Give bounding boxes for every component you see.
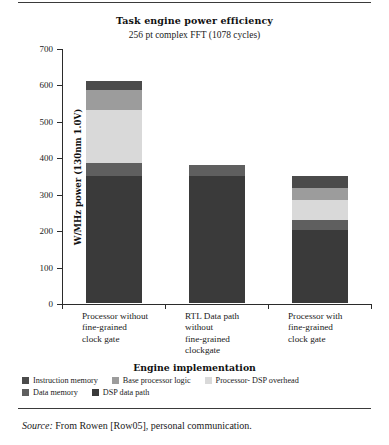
y-axis-tick-label: 300 <box>40 190 54 200</box>
legend-swatch-icon <box>112 377 119 384</box>
legend-item: Processor- DSP overhead <box>205 376 299 385</box>
plot-area: W/MHz power (130nm 1.0V) 010020030040050… <box>62 49 371 304</box>
bar-segment <box>189 176 245 304</box>
legend-row: Instruction memoryBase processor logicPr… <box>22 376 372 385</box>
y-axis-line <box>62 49 63 305</box>
bar-segment <box>86 163 142 176</box>
legend-swatch-icon <box>22 389 29 396</box>
y-axis-tick-label: 500 <box>40 117 54 127</box>
y-axis-tick <box>57 195 62 196</box>
y-axis-label: W/MHz power (130nm 1.0V) <box>73 108 83 244</box>
chart-title: Task engine power efficiency <box>0 14 389 27</box>
category-label-line: clock gate <box>288 334 374 345</box>
y-axis-tick <box>57 231 62 232</box>
title-block: Task engine power efficiency 256 pt comp… <box>0 14 389 42</box>
y-axis-tick-label: 0 <box>49 299 54 309</box>
x-axis-line <box>62 304 371 305</box>
x-axis-tick <box>165 304 166 309</box>
x-axis-label: Engine implementation <box>0 362 389 373</box>
category-label: Processor withfine-grainedclock gate <box>288 311 374 345</box>
source-caption: Source: From Rowen [Row05], personal com… <box>22 420 252 431</box>
bottom-divider-rule <box>18 408 371 409</box>
legend-item: Instruction memory <box>22 376 98 385</box>
bar-segment <box>86 81 142 90</box>
bar-segment <box>292 230 348 303</box>
y-axis-tick <box>57 158 62 159</box>
legend-swatch-icon <box>22 377 29 384</box>
legend-label: Processor- DSP overhead <box>216 376 299 385</box>
category-label-line: Processor without <box>82 311 168 322</box>
category-label-line: Processor with <box>288 311 374 322</box>
y-axis-tick-label: 400 <box>40 153 54 163</box>
y-axis-tick-label: 200 <box>40 226 54 236</box>
legend: Instruction memoryBase processor logicPr… <box>22 376 372 400</box>
y-axis-tick <box>57 268 62 269</box>
legend-label: Base processor logic <box>123 376 191 385</box>
category-label-line: fine-grained <box>288 322 374 333</box>
y-axis-tick-label: 600 <box>40 80 54 90</box>
bar-segment <box>86 90 142 110</box>
y-axis-tick <box>57 85 62 86</box>
category-label: Processor withoutfine-grainedclock gate <box>82 311 168 345</box>
legend-swatch-icon <box>92 389 99 396</box>
source-text: From Rowen [Row05], personal communicati… <box>55 420 252 431</box>
legend-item: Data memory <box>22 388 78 397</box>
figure-container: Task engine power efficiency 256 pt comp… <box>0 0 389 445</box>
legend-label: DSP data path <box>103 388 150 397</box>
category-label-line: without <box>185 322 271 333</box>
y-axis-tick-label: 700 <box>40 44 54 54</box>
category-label: RTL Data pathwithoutfine-grainedclockgat… <box>185 311 271 357</box>
legend-row: Data memoryDSP data path <box>22 388 372 397</box>
bar-segment <box>86 110 142 163</box>
category-label-line: fine-grained <box>185 334 271 345</box>
bar-segment <box>86 176 142 304</box>
x-axis-tick <box>268 304 269 309</box>
category-label-line: clockgate <box>185 345 271 356</box>
y-axis-tick <box>57 122 62 123</box>
legend-swatch-icon <box>205 377 212 384</box>
category-label-line: RTL Data path <box>185 311 271 322</box>
bar-segment <box>292 220 348 230</box>
x-axis-tick <box>62 304 63 309</box>
bar-segment <box>292 188 348 200</box>
legend-label: Data memory <box>33 388 78 397</box>
legend-label: Instruction memory <box>33 376 98 385</box>
bar-stack <box>292 176 348 303</box>
source-label: Source: <box>22 420 53 431</box>
legend-item: DSP data path <box>92 388 150 397</box>
bar-segment <box>292 200 348 220</box>
category-label-line: clock gate <box>82 334 168 345</box>
bar-segment <box>189 165 245 176</box>
bar-stack <box>189 165 245 303</box>
x-axis-tick <box>371 304 372 309</box>
chart-subtitle: 256 pt complex FFT (1078 cycles) <box>0 28 389 42</box>
bar-segment <box>292 176 348 189</box>
top-divider-rule <box>18 2 371 3</box>
legend-item: Base processor logic <box>112 376 191 385</box>
bar-stack <box>86 81 142 303</box>
y-axis-tick <box>57 49 62 50</box>
y-axis-tick-label: 100 <box>40 263 54 273</box>
category-label-line: fine-grained <box>82 322 168 333</box>
